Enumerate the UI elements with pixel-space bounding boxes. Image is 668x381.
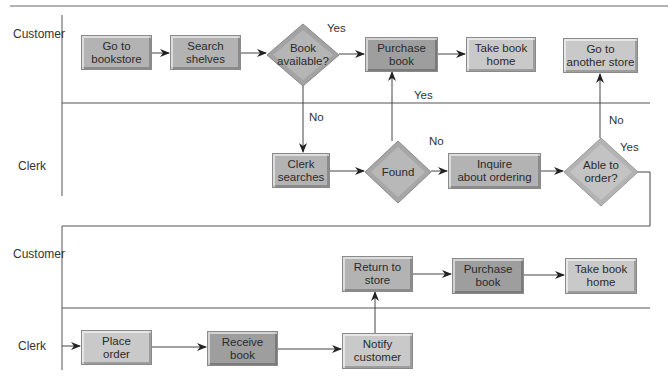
- process-go-to-bookstore: Go tobookstore: [81, 35, 152, 70]
- node-text: Take book: [575, 263, 627, 275]
- process-take-book-home: Take bookhome: [565, 258, 637, 294]
- node-text: searches: [278, 171, 325, 183]
- node-text: store: [365, 274, 391, 286]
- edge-label-yes: Yes: [620, 141, 639, 153]
- node-text: Place: [102, 335, 131, 347]
- node-text: Go to: [102, 40, 130, 52]
- node-text: Able to: [583, 159, 619, 171]
- process-take-book-home: Take bookhome: [466, 37, 536, 72]
- node-text: Notify: [363, 338, 392, 350]
- process-purchase-book: Purchasebook: [452, 258, 524, 294]
- decision-label-able-to-order: Able toorder?: [568, 157, 634, 187]
- node-text: book: [389, 55, 414, 67]
- process-clerk-searches: Clerksearches: [272, 153, 330, 188]
- node-text: Found: [382, 166, 415, 179]
- node-text: available?: [277, 55, 329, 67]
- process-receive-book: Receivebook: [207, 331, 278, 366]
- node-text: another store: [567, 56, 635, 68]
- edge-label-yes: Yes: [327, 22, 346, 34]
- node-text: Purchase: [377, 42, 426, 54]
- node-text: order?: [584, 172, 617, 184]
- edge-label-yes: Yes: [414, 89, 433, 101]
- edge-label-no: No: [429, 135, 444, 147]
- node-text: Clerk: [288, 158, 315, 170]
- node-text: home: [487, 55, 516, 67]
- node-text: Take book: [475, 42, 527, 54]
- node-text: Return to: [354, 261, 401, 273]
- lane-label-customer: Customer: [13, 247, 65, 261]
- node-text: customer: [354, 351, 401, 363]
- node-text: bookstore: [91, 53, 142, 65]
- node-text: book: [476, 276, 501, 288]
- lane-label-customer: Customer: [13, 27, 65, 41]
- process-purchase-book: Purchasebook: [365, 37, 438, 72]
- node-text: Receive: [222, 336, 264, 348]
- node-text: book: [230, 349, 255, 361]
- edge-label-no: No: [609, 114, 624, 126]
- node-text: order: [103, 348, 130, 360]
- node-text: about ordering: [457, 171, 531, 183]
- node-text: Search: [187, 40, 223, 52]
- node-text: Go to: [586, 43, 614, 55]
- node-text: Purchase: [464, 263, 513, 275]
- lane-label-clerk: Clerk: [18, 159, 46, 173]
- edge-label-no: No: [309, 111, 324, 123]
- process-go-to-another-store: Go toanother store: [563, 38, 638, 73]
- node-text: Book: [290, 42, 316, 54]
- process-inquire-about-ordering: Inquireabout ordering: [448, 153, 541, 189]
- process-search-shelves: Searchshelves: [170, 35, 241, 70]
- node-text: Inquire: [477, 158, 512, 170]
- node-text: home: [587, 276, 616, 288]
- process-place-order: Placeorder: [81, 330, 152, 365]
- process-notify-customer: Notifycustomer: [342, 333, 413, 369]
- decision-label-book-available: Bookavailable?: [270, 40, 336, 70]
- node-text: shelves: [186, 53, 225, 65]
- lane-label-clerk: Clerk: [18, 339, 46, 353]
- decision-label-found: Found: [368, 163, 428, 181]
- process-return-to-store: Return tostore: [342, 256, 413, 292]
